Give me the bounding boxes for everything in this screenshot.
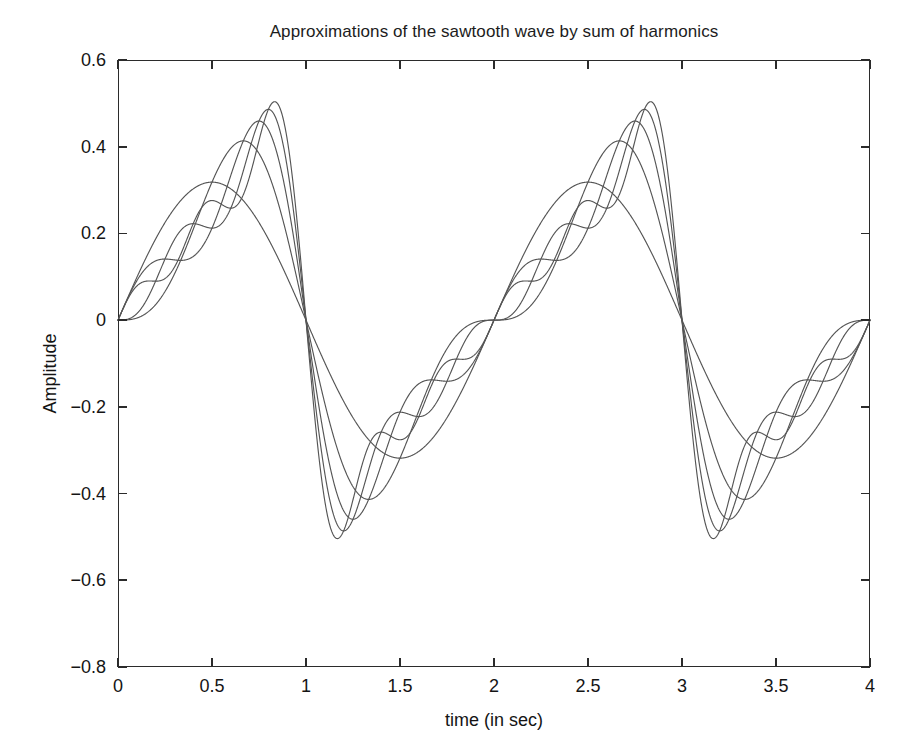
y-tick-label: 0.6	[81, 50, 106, 71]
x-tick-label: 1.5	[387, 676, 412, 697]
x-tick-mark-top	[305, 60, 307, 69]
y-tick-label: −0.6	[70, 570, 106, 591]
y-tick-mark	[118, 319, 127, 321]
harmonic-curve	[118, 102, 870, 539]
x-tick-mark	[493, 658, 495, 667]
plot-area	[118, 60, 870, 667]
x-tick-label: 0	[113, 676, 123, 697]
y-tick-mark-right	[861, 493, 870, 495]
y-tick-label: 0.2	[81, 223, 106, 244]
y-tick-mark	[118, 233, 127, 235]
x-tick-mark-top	[775, 60, 777, 69]
x-tick-mark-top	[117, 60, 119, 69]
x-tick-mark	[117, 658, 119, 667]
harmonic-curves	[118, 60, 870, 667]
y-tick-label: −0.4	[70, 483, 106, 504]
x-tick-label: 3.5	[763, 676, 788, 697]
y-tick-mark	[118, 146, 127, 148]
x-tick-mark	[211, 658, 213, 667]
y-tick-mark-right	[861, 666, 870, 668]
x-tick-mark-top	[399, 60, 401, 69]
y-tick-label: −0.8	[70, 657, 106, 678]
x-tick-mark-top	[587, 60, 589, 69]
x-tick-mark-top	[681, 60, 683, 69]
x-tick-mark-top	[211, 60, 213, 69]
y-tick-mark	[118, 579, 127, 581]
x-tick-mark	[681, 658, 683, 667]
y-tick-mark	[118, 59, 127, 61]
x-tick-mark-top	[869, 60, 871, 69]
y-tick-mark	[118, 666, 127, 668]
x-tick-mark	[587, 658, 589, 667]
x-axis-label: time (in sec)	[118, 710, 870, 731]
x-tick-label: 4	[865, 676, 875, 697]
x-tick-mark	[305, 658, 307, 667]
y-tick-label: 0	[96, 310, 106, 331]
x-tick-label: 2	[489, 676, 499, 697]
x-tick-mark	[775, 658, 777, 667]
y-tick-mark-right	[861, 233, 870, 235]
y-tick-mark-right	[861, 579, 870, 581]
y-tick-label: 0.4	[81, 136, 106, 157]
x-tick-label: 3	[677, 676, 687, 697]
y-tick-mark-right	[861, 406, 870, 408]
x-tick-label: 1	[301, 676, 311, 697]
page-title: Approximations of the sawtooth wave by s…	[118, 22, 870, 42]
x-tick-mark-top	[493, 60, 495, 69]
figure-canvas: Approximations of the sawtooth wave by s…	[0, 0, 902, 756]
x-tick-label: 0.5	[199, 676, 224, 697]
y-tick-label: −0.2	[70, 396, 106, 417]
y-tick-mark-right	[861, 319, 870, 321]
x-tick-label: 2.5	[575, 676, 600, 697]
x-axis-tick-labels: 00.511.522.533.54	[0, 676, 902, 706]
x-tick-mark	[399, 658, 401, 667]
y-tick-mark	[118, 493, 127, 495]
y-axis-tick-labels: −0.8−0.6−0.4−0.200.20.40.6	[0, 0, 106, 756]
y-tick-mark-right	[861, 146, 870, 148]
y-tick-mark-right	[861, 59, 870, 61]
y-tick-mark	[118, 406, 127, 408]
